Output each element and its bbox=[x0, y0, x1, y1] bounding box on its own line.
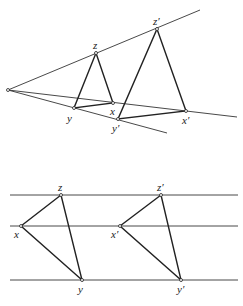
triangle-xyz-bottom bbox=[21, 195, 82, 280]
label-x-prime: x′ bbox=[181, 114, 190, 126]
label-z-prime: z′ bbox=[152, 15, 160, 27]
ray-through-y bbox=[8, 90, 167, 133]
label-y-prime-bottom: y′ bbox=[176, 283, 185, 295]
ray-through-x bbox=[8, 90, 237, 117]
diagram-canvas: z x y z′ x′ y′ z x y z′ x′ y′ bbox=[0, 0, 243, 306]
point-y bbox=[73, 107, 76, 110]
label-y-prime: y′ bbox=[111, 122, 120, 134]
point-y-prime bbox=[117, 118, 120, 121]
parallel-figure: z x y z′ x′ y′ bbox=[10, 181, 238, 295]
perspective-figure: z x y z′ x′ y′ bbox=[7, 10, 238, 134]
label-y: y bbox=[66, 112, 72, 124]
point-z bbox=[95, 52, 98, 55]
point-y-prime-bottom bbox=[180, 279, 183, 282]
label-z-prime-bottom: z′ bbox=[156, 181, 164, 193]
triangle-xyz-prime bbox=[118, 29, 186, 119]
center-point bbox=[7, 89, 10, 92]
point-z-prime-bottom bbox=[160, 194, 163, 197]
point-x-bottom bbox=[20, 225, 23, 228]
point-z-bottom bbox=[60, 194, 63, 197]
label-z: z bbox=[92, 39, 98, 51]
point-x-prime bbox=[185, 110, 188, 113]
triangle-xyz-prime-bottom bbox=[120, 195, 181, 280]
label-x-bottom: x bbox=[13, 228, 19, 240]
label-x-prime-bottom: x′ bbox=[110, 228, 119, 240]
label-z-bottom: z bbox=[57, 181, 63, 193]
label-x: x bbox=[109, 105, 115, 117]
point-y-bottom bbox=[81, 279, 84, 282]
label-y-bottom: y bbox=[77, 283, 83, 295]
point-z-prime bbox=[156, 28, 159, 31]
point-x-prime-bottom bbox=[119, 225, 122, 228]
